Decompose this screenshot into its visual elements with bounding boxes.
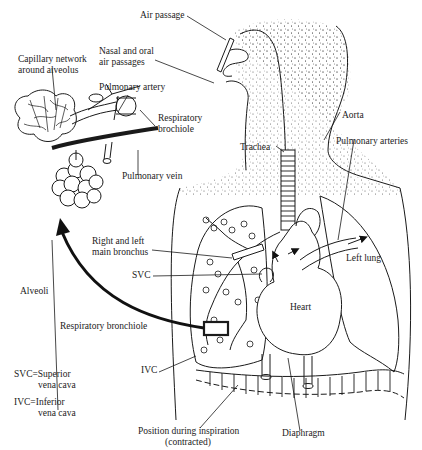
label-trachea: Trachea <box>240 142 270 153</box>
label-inspiration-2: (contracted) <box>165 437 211 448</box>
label-respiratory-bronchiole: Respiratory bronchiole <box>60 321 147 332</box>
label-nasal-oral-1: Nasal and oral <box>99 46 154 57</box>
label-pulmonary-artery: Pulmonary artery <box>99 82 165 93</box>
label-capillary-2: around alveolus <box>18 65 78 76</box>
label-ivc: IVC <box>141 365 157 376</box>
head-and-throat <box>180 19 400 230</box>
label-main-bronchus-1: Right and left <box>92 236 144 247</box>
label-inspiration-1: Position during inspiration <box>138 426 239 437</box>
label-pulmonary-vein: Pulmonary vein <box>122 171 182 182</box>
alveolus-detail <box>15 84 158 208</box>
label-alveoli: Alveoli <box>20 286 49 297</box>
label-pulmonary-arteries: Pulmonary arteries <box>336 136 408 147</box>
legend-ivc-1: IVC=Inferior <box>14 397 65 408</box>
arrow-head <box>56 218 70 236</box>
respiratory-diagram: Air passage Nasal and oral air passages … <box>0 0 422 450</box>
label-air-passage: Air passage <box>140 10 185 21</box>
label-svc: SVC <box>132 270 150 281</box>
label-aorta: Aorta <box>342 110 364 121</box>
legend-svc-1: SVC=Superior <box>14 369 71 380</box>
label-heart: Heart <box>290 302 311 313</box>
label-nasal-oral-2: air passages <box>99 57 145 68</box>
legend-ivc-2: vena cava <box>38 408 76 419</box>
label-diaphragm: Diaphragm <box>282 428 325 439</box>
label-capillary-1: Capillary network <box>18 54 87 65</box>
label-main-bronchus-2: main bronchus <box>92 247 148 258</box>
label-respiratory-brochiole-1: Respiratory <box>158 113 202 124</box>
label-left-lung: Left lung <box>346 253 381 264</box>
label-respiratory-brochiole-2: brochiole <box>158 124 194 135</box>
legend-svc-2: vena cava <box>38 380 76 391</box>
